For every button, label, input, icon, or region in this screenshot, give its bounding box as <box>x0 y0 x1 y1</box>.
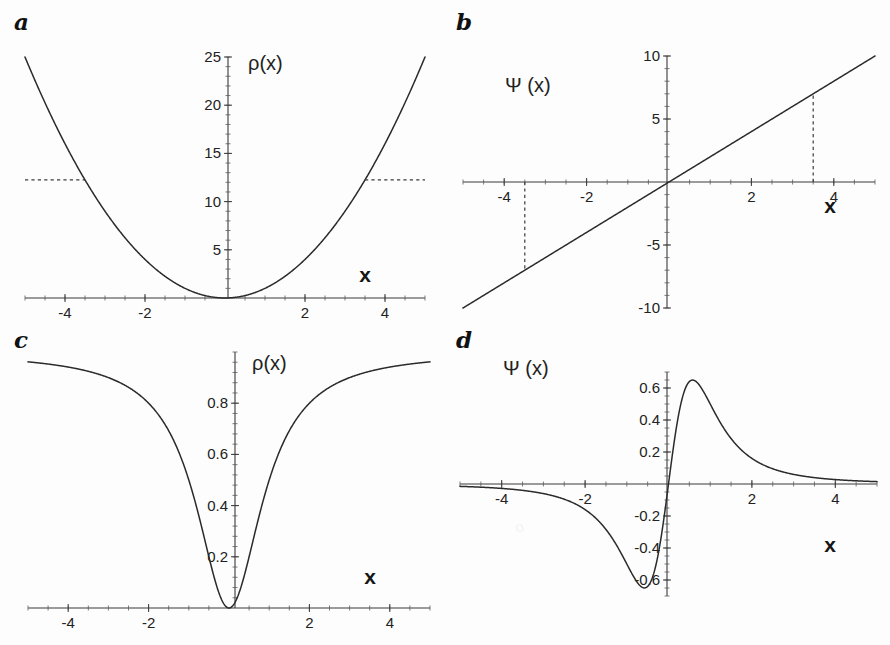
x-tick-label: 2 <box>747 188 755 205</box>
x-tick-label: -2 <box>142 614 155 631</box>
x-tick-label: -4 <box>498 188 511 205</box>
x-tick-label: 4 <box>386 614 394 631</box>
y-tick-label: -0.2 <box>634 507 660 524</box>
plot-svg-d: -4-224-0.6-0.4-0.20.20.40.6Ψ (x)x <box>445 322 890 645</box>
x-tick-label: -2 <box>578 490 591 507</box>
y-tick-label: 20 <box>204 96 221 113</box>
x-tick-label: 2 <box>748 490 756 507</box>
x-tick-label: 2 <box>305 614 313 631</box>
figure-container: a -4-224510152025ρ(x)x b -4-224-10-5510Ψ… <box>0 0 890 645</box>
y-tick-label: -0.6 <box>634 571 660 588</box>
x-axis-title: x <box>364 565 376 588</box>
y-tick-label: 25 <box>204 48 221 65</box>
data-curve <box>25 57 425 298</box>
y-tick-label: 0.2 <box>639 443 660 460</box>
x-tick-label: -4 <box>495 490 508 507</box>
x-tick-label: -2 <box>138 304 151 321</box>
x-tick-label: 2 <box>301 304 309 321</box>
y-tick-label: 0.4 <box>639 411 660 428</box>
plot-panel-c: c -4-2240.20.40.60.8ρ(x)x <box>0 322 445 645</box>
x-axis-title: x <box>824 194 836 217</box>
y-axis-title: Ψ (x) <box>503 357 549 379</box>
y-axis-title: ρ(x) <box>248 52 283 74</box>
x-tick-label: 4 <box>831 490 839 507</box>
x-tick-label: -4 <box>62 614 75 631</box>
plot-panel-b: b -4-224-10-5510Ψ (x)x <box>445 0 890 322</box>
y-tick-label: -5 <box>647 236 660 253</box>
plot-svg-c: -4-2240.20.40.60.8ρ(x)x <box>0 322 445 645</box>
x-tick-label: -4 <box>58 304 71 321</box>
y-axis-title: ρ(x) <box>252 352 287 374</box>
y-tick-label: -10 <box>638 299 660 316</box>
y-tick-label: 0.6 <box>207 445 228 462</box>
y-tick-label: 10 <box>204 193 221 210</box>
x-tick-label: 4 <box>381 304 389 321</box>
plot-panel-d: d -4-224-0.6-0.4-0.20.20.40.6Ψ (x)x o <box>445 322 890 645</box>
y-tick-label: 0.4 <box>207 497 228 514</box>
y-tick-label: -0.4 <box>634 539 660 556</box>
plot-svg-b: -4-224-10-5510Ψ (x)x <box>445 0 890 322</box>
x-tick-label: -2 <box>580 188 593 205</box>
y-tick-label: 5 <box>213 241 221 258</box>
y-tick-label: 10 <box>643 47 660 64</box>
plot-svg-a: -4-224510152025ρ(x)x <box>0 0 445 322</box>
plot-panel-a: a -4-224510152025ρ(x)x <box>0 0 445 322</box>
x-axis-title: x <box>359 263 371 286</box>
y-tick-label: 15 <box>204 144 221 161</box>
y-axis-title: Ψ (x) <box>505 74 551 96</box>
y-tick-label: 0.6 <box>639 379 660 396</box>
x-axis-title: x <box>824 533 836 556</box>
y-tick-label: 5 <box>652 110 660 127</box>
y-tick-label: 0.8 <box>207 394 228 411</box>
